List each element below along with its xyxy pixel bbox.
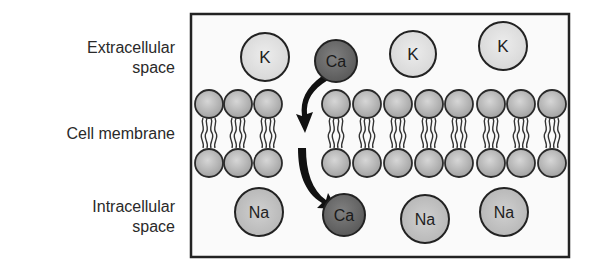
svg-text:Na: Na bbox=[415, 211, 436, 228]
ion-calcium: Ca bbox=[323, 194, 365, 236]
ion-potassium: K bbox=[241, 33, 289, 81]
svg-text:K: K bbox=[407, 45, 419, 64]
ion-potassium: K bbox=[390, 31, 436, 77]
ion-potassium: K bbox=[479, 22, 527, 70]
svg-text:Na: Na bbox=[249, 204, 270, 221]
svg-text:Ca: Ca bbox=[326, 53, 347, 70]
svg-text:K: K bbox=[259, 48, 271, 67]
membrane-diagram: K Ca K K Na Ca Na Na bbox=[0, 0, 589, 276]
ion-sodium: Na bbox=[480, 188, 528, 236]
ion-sodium: Na bbox=[235, 188, 283, 236]
svg-text:K: K bbox=[497, 37, 509, 56]
ion-sodium: Na bbox=[401, 195, 449, 243]
ion-calcium: Ca bbox=[315, 40, 357, 82]
svg-text:Na: Na bbox=[494, 204, 515, 221]
svg-text:Ca: Ca bbox=[334, 207, 355, 224]
